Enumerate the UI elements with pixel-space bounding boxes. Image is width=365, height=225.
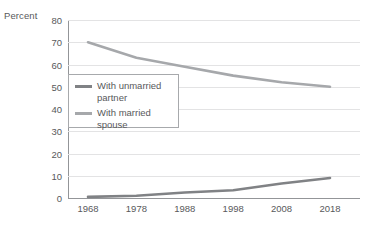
legend-swatch-icon [75,112,92,115]
percent-line-chart: Percent 01020304050607080 19681978198819… [0,0,365,225]
series-line [88,178,330,197]
legend-label: With married spouse [97,107,151,130]
series-lines [0,0,365,225]
legend-item: With married spouse [75,107,174,130]
legend-label: With unmarried partner [97,80,161,103]
legend-swatch-icon [75,85,92,88]
chart-legend: With unmarried partnerWith married spous… [68,74,179,128]
legend-item: With unmarried partner [75,80,174,103]
